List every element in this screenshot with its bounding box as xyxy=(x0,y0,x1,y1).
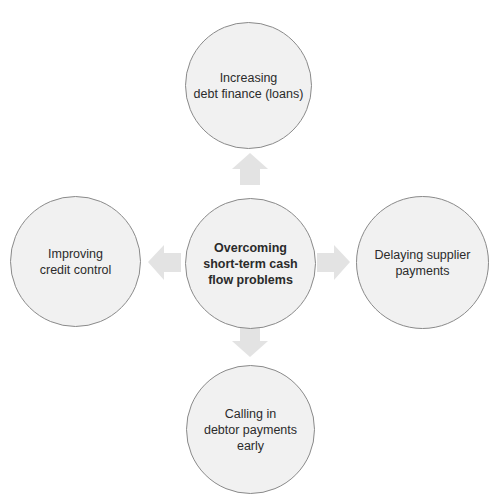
node-center-label: Overcoming short-term cash flow problems xyxy=(203,240,297,288)
arrow-left-icon xyxy=(148,245,181,280)
node-bottom-label: Calling in debtor payments early xyxy=(204,406,297,454)
node-right-label: Delaying supplier payments xyxy=(375,247,471,279)
node-left: Improving credit control xyxy=(10,196,141,327)
node-top: Increasing debt finance (loans) xyxy=(185,22,312,149)
arrow-down-icon xyxy=(232,325,268,357)
arrow-right-icon xyxy=(317,245,350,280)
arrow-up-icon xyxy=(232,153,268,185)
node-top-label: Increasing debt finance (loans) xyxy=(194,70,304,102)
node-bottom: Calling in debtor payments early xyxy=(186,365,315,494)
node-center: Overcoming short-term cash flow problems xyxy=(185,198,316,329)
node-right: Delaying supplier payments xyxy=(356,196,489,329)
node-left-label: Improving credit control xyxy=(40,246,112,278)
